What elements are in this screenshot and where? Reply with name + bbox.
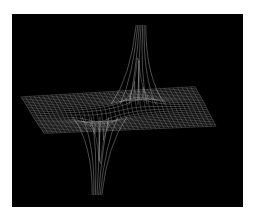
positive-peak-strand	[146, 25, 165, 105]
wireframe-surface	[12, 14, 243, 207]
surface-plot-panel: 3D wireframe mesh of a flat plane with o…	[12, 14, 243, 207]
